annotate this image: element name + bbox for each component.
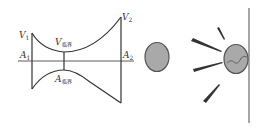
label-v2: V2 [122,12,133,23]
label-a1: A1 [19,50,30,61]
motion-streaks [191,27,225,103]
streak-bottom [203,84,220,103]
label-a2: A2 [122,50,134,61]
label-v-critical: V临界 [55,37,72,48]
area-curve [32,70,121,103]
velocity-curve [32,17,121,52]
nozzle-diagram [18,17,134,103]
diagram-canvas: V1 V2 A1 A2 V临界 A临界 [0,0,270,127]
ball-at-impact [224,45,248,74]
streak-upper [191,38,222,52]
streak-lower [193,62,223,72]
label-v1: V1 [19,30,29,41]
ball-before-impact [145,43,169,72]
diagram-svg: V1 V2 A1 A2 V临界 A临界 [0,0,270,127]
label-a-critical: A临界 [54,74,72,85]
streak-top [217,27,225,40]
